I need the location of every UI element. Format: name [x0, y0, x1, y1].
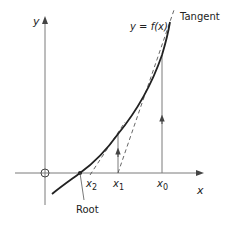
x-axis-label: x — [196, 184, 204, 197]
newton-raphson-diagram: y x y = f(x) Tangent x2 x1 x0 Root — [0, 0, 227, 226]
x2-label: x2 — [85, 178, 97, 192]
x1-label: x1 — [112, 178, 124, 192]
x0-label: x0 — [156, 178, 168, 192]
y-axis-label: y — [32, 15, 40, 28]
curve-label: y = f(x) — [129, 21, 168, 32]
root-label: Root — [76, 204, 99, 215]
tangent-label: Tangent — [179, 11, 220, 22]
root-leader-line — [80, 173, 84, 200]
function-curve — [52, 22, 170, 194]
